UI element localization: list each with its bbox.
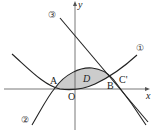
y-axis-label: y [77, 0, 83, 10]
line-3-label: ③ [48, 10, 56, 20]
point-b-label: B [107, 80, 114, 91]
x-axis-label: x [145, 90, 151, 101]
origin-label: O [68, 91, 75, 102]
line-3 [60, 18, 148, 122]
point-c-prime-label: C' [119, 74, 128, 85]
curve-2-label: ② [21, 115, 29, 125]
point-a-label: A [50, 75, 58, 86]
graph-canvas: y x O A B C' D ① ② ③ [0, 0, 154, 133]
region-d-label: D [82, 73, 91, 84]
y-axis-arrow-icon [73, 1, 77, 6]
graph-diagram: y x O A B C' D ① ② ③ [0, 0, 154, 133]
curve-1-label: ① [136, 43, 144, 53]
